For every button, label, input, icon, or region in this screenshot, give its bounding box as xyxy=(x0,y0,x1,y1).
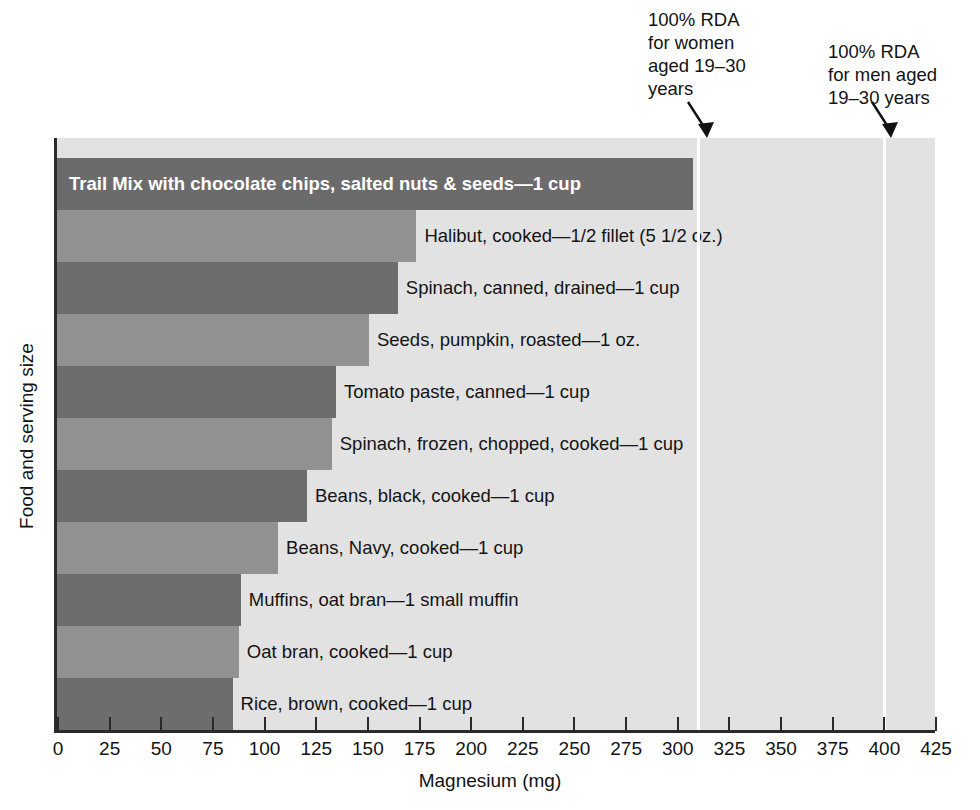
bar xyxy=(57,626,239,678)
x-axis-tick xyxy=(625,717,627,731)
x-axis-title: Magnesium (mg) xyxy=(0,770,980,792)
x-axis-tick-label: 75 xyxy=(202,738,223,760)
bar-label: Spinach, canned, drained—1 cup xyxy=(406,262,680,314)
x-axis-tick xyxy=(883,717,885,731)
bar xyxy=(57,678,233,730)
bar-row: Tomato paste, canned—1 cup xyxy=(57,366,935,418)
x-axis-tick xyxy=(470,717,472,731)
bar xyxy=(57,366,336,418)
bar-row: Oat bran, cooked—1 cup xyxy=(57,626,935,678)
x-axis-tick-label: 100 xyxy=(249,738,281,760)
x-axis-tick-label: 125 xyxy=(300,738,332,760)
bar-row: Beans, Navy, cooked—1 cup xyxy=(57,522,935,574)
x-axis-tick-label: 300 xyxy=(662,738,694,760)
rda-men-reference-line xyxy=(883,138,886,730)
x-axis-tick xyxy=(160,717,162,731)
bar xyxy=(57,574,241,626)
x-axis-tick-label: 325 xyxy=(714,738,746,760)
bar-label: Trail Mix with chocolate chips, salted n… xyxy=(69,158,581,210)
x-axis-tick xyxy=(677,717,679,731)
bar-label: Spinach, frozen, chopped, cooked—1 cup xyxy=(340,418,684,470)
x-axis-tick xyxy=(109,717,111,731)
x-axis-tick xyxy=(212,717,214,731)
x-axis-tick xyxy=(419,717,421,731)
x-axis-tick-label: 175 xyxy=(404,738,436,760)
x-axis-tick xyxy=(935,717,937,731)
bar xyxy=(57,418,332,470)
x-axis-tick-label: 50 xyxy=(151,738,172,760)
x-axis-tick-label: 375 xyxy=(817,738,849,760)
x-axis-tick xyxy=(264,717,266,731)
x-axis-tick-label: 425 xyxy=(920,738,952,760)
x-axis-tick-label: 275 xyxy=(610,738,642,760)
x-axis-tick xyxy=(573,717,575,731)
magnesium-bar-chart: 100% RDA for women aged 19–30 years 100%… xyxy=(0,0,980,810)
rda-women-reference-line xyxy=(697,138,700,730)
bar xyxy=(57,522,278,574)
rda-women-arrow-icon xyxy=(684,100,724,142)
bar-label: Oat bran, cooked—1 cup xyxy=(247,626,453,678)
bar-row: Trail Mix with chocolate chips, salted n… xyxy=(57,158,935,210)
bar-row: Halibut, cooked—1/2 fillet (5 1/2 oz.) xyxy=(57,210,935,262)
y-axis-title: Food and serving size xyxy=(16,276,38,596)
plot-area: Trail Mix with chocolate chips, salted n… xyxy=(57,138,935,730)
x-axis-tick xyxy=(832,717,834,731)
x-axis-tick-label: 250 xyxy=(559,738,591,760)
x-axis-line xyxy=(54,730,935,733)
bar-label: Beans, Navy, cooked—1 cup xyxy=(286,522,523,574)
x-axis-tick-label: 225 xyxy=(507,738,539,760)
x-axis-tick xyxy=(780,717,782,731)
bar-row: Seeds, pumpkin, roasted—1 oz. xyxy=(57,314,935,366)
bar-row: Spinach, frozen, chopped, cooked—1 cup xyxy=(57,418,935,470)
bar-row: Rice, brown, cooked—1 cup xyxy=(57,678,935,730)
rda-men-annotation-text: 100% RDA for men aged 19–30 years xyxy=(828,40,978,109)
bar-row: Spinach, canned, drained—1 cup xyxy=(57,262,935,314)
x-axis-tick-label: 200 xyxy=(455,738,487,760)
bar xyxy=(57,262,398,314)
bar-label: Muffins, oat bran—1 small muffin xyxy=(249,574,519,626)
bar xyxy=(57,210,416,262)
bar xyxy=(57,470,307,522)
bar-row: Muffins, oat bran—1 small muffin xyxy=(57,574,935,626)
x-axis-tick-label: 400 xyxy=(868,738,900,760)
bar-label: Halibut, cooked—1/2 fillet (5 1/2 oz.) xyxy=(424,210,722,262)
bar-label: Beans, black, cooked—1 cup xyxy=(315,470,555,522)
rda-men-arrow-icon xyxy=(868,100,908,142)
x-axis-tick xyxy=(522,717,524,731)
x-axis-tick-label: 25 xyxy=(99,738,120,760)
rda-women-annotation-text: 100% RDA for women aged 19–30 years xyxy=(648,8,788,100)
bar-label: Rice, brown, cooked—1 cup xyxy=(241,678,472,730)
bar-label: Seeds, pumpkin, roasted—1 oz. xyxy=(377,314,640,366)
x-axis-tick-label: 350 xyxy=(765,738,797,760)
bar-row: Beans, black, cooked—1 cup xyxy=(57,470,935,522)
bar-label: Tomato paste, canned—1 cup xyxy=(344,366,590,418)
x-axis-tick-label: 150 xyxy=(352,738,384,760)
x-axis-tick xyxy=(367,717,369,731)
x-axis-tick xyxy=(57,717,59,731)
x-axis-tick xyxy=(315,717,317,731)
x-axis-tick xyxy=(728,717,730,731)
bar xyxy=(57,314,369,366)
x-axis-tick-label: 0 xyxy=(53,738,64,760)
